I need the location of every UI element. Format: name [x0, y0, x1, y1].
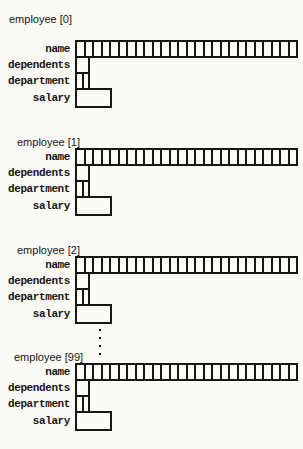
memory-cell: [162, 42, 171, 56]
field-rows: name dependents department salary: [0, 363, 303, 431]
memory-cell: [290, 42, 297, 56]
memory-cell: [77, 198, 110, 214]
field-row-salary: salary: [0, 88, 303, 108]
field-label-name: name: [0, 259, 70, 271]
memory-cell: [188, 42, 197, 56]
memory-cell: [86, 150, 95, 164]
memory-cell: [137, 150, 146, 164]
memory-cell: [86, 258, 95, 272]
field-label-department: department: [0, 183, 70, 195]
field-row-salary: salary: [0, 304, 303, 324]
memory-cell: [84, 397, 89, 411]
memory-cell: [264, 42, 273, 56]
memory-cell: [128, 150, 137, 164]
memory-cell: [77, 166, 88, 180]
salary-box: [75, 411, 112, 431]
memory-cell: [273, 42, 282, 56]
memory-cell: [162, 150, 171, 164]
memory-cell: [128, 258, 137, 272]
memory-cell: [111, 365, 120, 379]
memory-cell: [230, 150, 239, 164]
field-row-salary: salary: [0, 411, 303, 431]
memory-cell: [111, 258, 120, 272]
memory-cell: [86, 42, 95, 56]
memory-cell: [103, 365, 112, 379]
memory-cell: [239, 42, 248, 56]
memory-cell: [281, 258, 290, 272]
memory-cell: [264, 365, 273, 379]
memory-cell: [145, 258, 154, 272]
memory-cell: [247, 150, 256, 164]
field-label-dependents: dependents: [0, 167, 70, 179]
memory-cell: [205, 365, 214, 379]
memory-cell: [264, 150, 273, 164]
field-label-department: department: [0, 291, 70, 303]
memory-cell: [222, 42, 231, 56]
memory-cell: [179, 258, 188, 272]
field-label-department: department: [0, 75, 70, 87]
memory-cell: [137, 258, 146, 272]
memory-cell: [84, 74, 89, 88]
memory-cell: [247, 42, 256, 56]
memory-cell: [94, 258, 103, 272]
memory-cell: [94, 42, 103, 56]
memory-cell: [239, 258, 248, 272]
memory-cell: [230, 365, 239, 379]
memory-cell: [222, 150, 231, 164]
memory-cell: [171, 42, 180, 56]
memory-cell: [120, 258, 129, 272]
name-cell-array: [75, 40, 298, 58]
field-label-dependents: dependents: [0, 59, 70, 71]
memory-cell: [290, 258, 297, 272]
memory-cell: [94, 365, 103, 379]
memory-cell: [77, 365, 86, 379]
field-row-salary: salary: [0, 196, 303, 216]
block-label: employee [1]: [17, 136, 303, 148]
memory-cell: [103, 258, 112, 272]
memory-cell: [77, 90, 110, 106]
memory-cell: [137, 42, 146, 56]
name-cell-array: [75, 256, 298, 274]
field-label-department: department: [0, 398, 70, 410]
memory-cell: [77, 413, 110, 429]
salary-box: [75, 304, 112, 324]
memory-cell: [290, 365, 297, 379]
memory-cell: [171, 258, 180, 272]
field-rows: name dependents department salary: [0, 256, 303, 324]
struct-block-employee-1: employee [1] name dependents department …: [0, 136, 303, 216]
memory-cell: [222, 365, 231, 379]
salary-box: [75, 88, 112, 108]
memory-cell: [256, 258, 265, 272]
memory-cell: [213, 42, 222, 56]
block-label: employee [2]: [17, 244, 303, 256]
memory-cell: [94, 150, 103, 164]
memory-cell: [230, 42, 239, 56]
memory-cell: [77, 258, 86, 272]
ellipsis-dot: [99, 345, 101, 347]
memory-cell: [162, 258, 171, 272]
memory-cell: [196, 365, 205, 379]
memory-cell: [145, 365, 154, 379]
memory-cell: [273, 150, 282, 164]
memory-cell: [205, 150, 214, 164]
struct-block-employee-0: employee [0] name dependents department …: [0, 13, 303, 108]
field-label-dependents: dependents: [0, 382, 70, 394]
memory-cell: [281, 365, 290, 379]
memory-cell: [213, 365, 222, 379]
memory-cell: [247, 258, 256, 272]
memory-cell: [256, 42, 265, 56]
field-rows: name dependents department salary: [0, 40, 303, 108]
field-label-name: name: [0, 151, 70, 163]
memory-cell: [179, 365, 188, 379]
memory-cell: [188, 258, 197, 272]
field-rows: name dependents department salary: [0, 148, 303, 216]
memory-cell: [86, 365, 95, 379]
memory-cell: [154, 365, 163, 379]
memory-cell: [247, 365, 256, 379]
memory-cell: [171, 365, 180, 379]
field-label-salary: salary: [0, 200, 70, 212]
memory-cell: [145, 150, 154, 164]
memory-cell: [154, 42, 163, 56]
memory-cell: [77, 306, 110, 322]
ellipsis-dot: [99, 329, 101, 331]
